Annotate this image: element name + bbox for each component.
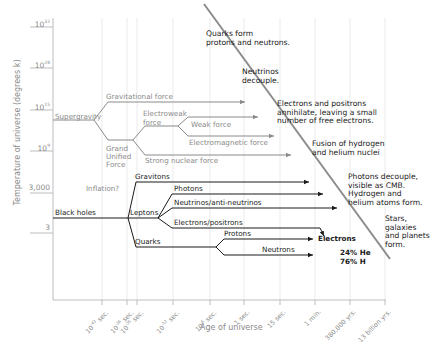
- label-leptons: Leptons: [130, 209, 158, 217]
- label-gravitons: Gravitons: [135, 173, 170, 181]
- event-electron-positron-annihilation: Electrons and positronsannihilate, leavi…: [277, 100, 377, 126]
- event-stars-form: Stars,galaxiesand planetsform.: [385, 215, 430, 250]
- label-black-holes: Black holes: [55, 209, 96, 217]
- y-tick-3000: 3,000: [10, 183, 50, 192]
- label-quarks: Quarks: [135, 238, 160, 246]
- label-gravitational-force: Gravitational force: [106, 93, 173, 101]
- label-electroweak-2: force: [143, 119, 161, 127]
- label-guf-3: Force: [106, 161, 125, 169]
- event-quarks-form: Quarks formprotons and neutrons.: [206, 30, 290, 47]
- label-inflation: Inflation?: [86, 185, 119, 193]
- y-tick-10-28: 1028: [10, 60, 50, 70]
- label-supergravity: Supergravity: [55, 113, 101, 121]
- label-protons: Protons: [224, 230, 251, 238]
- y-tick-10-9: 109: [10, 143, 50, 153]
- event-neutrinos-decouple: Neutrinosdecouple.: [242, 68, 279, 85]
- label-weak-force: Weak force: [191, 121, 231, 129]
- label-electrons-positrons: Electrons/positrons: [174, 219, 243, 227]
- event-photons-decouple: Photons decouple,visible as CMB.Hydrogen…: [348, 173, 423, 208]
- label-electromagnetic-force: Electromagnetic force: [189, 139, 268, 147]
- y-tick-10-32: 1032: [10, 19, 50, 29]
- y-tick-10-15: 1015: [10, 102, 50, 112]
- event-fusion: Fusion of hydrogenand helium nuclei: [312, 140, 384, 157]
- label-photons: Photons: [174, 185, 203, 193]
- x-axis-title: Age of universe: [200, 323, 263, 332]
- label-neutrinos: Neutrinos/anti-neutrinos: [174, 199, 262, 207]
- label-hydrogen-fraction: 76% H: [340, 258, 366, 266]
- y-tick-3: 3: [10, 223, 50, 232]
- label-neutrons: Neutrons: [262, 246, 295, 254]
- label-electrons-result: Electrons: [318, 235, 356, 243]
- label-strong-nuclear-force: Strong nuclear force: [145, 157, 218, 165]
